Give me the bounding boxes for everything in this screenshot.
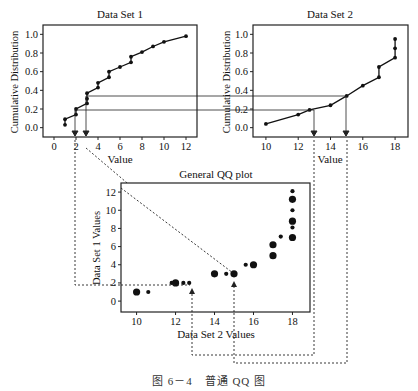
data-point — [107, 75, 111, 79]
qq-point — [250, 261, 257, 268]
data-point — [151, 45, 155, 49]
qq-point — [269, 252, 276, 259]
qq-ylabel: Data Set 1 Values — [91, 211, 102, 285]
plot-data-set-1: Data Set 1 0.00.20.40.60.81.0 024681012 … — [9, 8, 197, 165]
data-point — [140, 50, 144, 54]
qq-x-ticks: 1012141618 — [131, 312, 297, 327]
qq-title: General QQ plot — [179, 168, 252, 180]
plot1-series — [63, 34, 188, 126]
data-point — [393, 46, 397, 50]
qq-point — [181, 281, 185, 285]
data-point — [393, 37, 397, 41]
data-point — [184, 34, 188, 38]
qq-point — [269, 241, 276, 248]
y-tick-label: 0.0 — [235, 122, 248, 133]
y-tick-label: 8 — [111, 223, 116, 234]
data-point — [96, 86, 100, 90]
y-tick-label: 0.4 — [235, 85, 249, 96]
data-point — [96, 81, 100, 85]
qq-figure: Data Set 1 0.00.20.40.60.81.0 024681012 … — [0, 0, 418, 391]
qq-point — [279, 234, 283, 238]
plot2-series — [264, 37, 397, 126]
y-tick-label: 1.0 — [235, 29, 248, 40]
x-tick-label: 2 — [73, 141, 78, 152]
plot2-x-ticks: 1012141618 — [261, 137, 401, 152]
plot-general-qq: General QQ plot 024681012 1012141618 Dat… — [91, 168, 310, 340]
plot1-xlabel: Value — [107, 153, 132, 165]
data-point — [361, 84, 365, 88]
x-tick-label: 12 — [170, 316, 181, 327]
data-point — [129, 60, 133, 64]
x-tick-label: 18 — [390, 141, 401, 152]
y-tick-label: 0.6 — [235, 66, 248, 77]
plot1-x-ticks: 024681012 — [51, 137, 191, 152]
plot2-xlabel: Value — [317, 153, 342, 165]
data-point — [63, 123, 67, 127]
x-tick-label: 8 — [139, 141, 144, 152]
y-tick-label: 1.0 — [25, 29, 38, 40]
data-point — [107, 70, 111, 74]
y-tick-label: 0.2 — [25, 104, 38, 115]
y-tick-label: 0.8 — [25, 48, 38, 59]
qq-point — [290, 225, 294, 229]
x-tick-label: 10 — [159, 141, 170, 152]
qq-point — [133, 288, 140, 295]
qq-xlabel: Data Set 2 Values — [177, 328, 255, 340]
qq-point — [146, 290, 150, 294]
data-point — [393, 56, 397, 60]
y-tick-label: 4 — [111, 259, 117, 270]
y-tick-label: 0.4 — [25, 85, 39, 96]
plot1-ylabel: Cumulative Distribution — [9, 30, 20, 133]
data-point — [329, 103, 333, 107]
x-tick-label: 12 — [293, 141, 304, 152]
x-tick-label: 16 — [358, 141, 369, 152]
figure-caption: 图 6－4 普通 QQ 图 — [0, 372, 418, 388]
qq-point — [289, 234, 296, 241]
data-point — [85, 91, 89, 95]
qq-point — [224, 272, 228, 276]
plot-data-set-2: Data Set 2 0.00.20.40.60.81.0 1012141618… — [221, 8, 408, 165]
x-tick-label: 4 — [95, 141, 101, 152]
data-point — [377, 65, 381, 69]
qq-y-ticks: 024681012 — [106, 187, 122, 307]
plot2-y-ticks: 0.00.20.40.60.81.0 — [235, 29, 253, 133]
x-tick-label: 10 — [261, 141, 272, 152]
data-point — [129, 55, 133, 59]
qq-point — [211, 270, 218, 277]
y-tick-label: 0.6 — [25, 66, 38, 77]
data-point — [162, 40, 166, 44]
y-tick-label: 10 — [106, 205, 117, 216]
qq-point — [244, 263, 248, 267]
y-tick-label: 6 — [111, 241, 116, 252]
qq-point — [289, 196, 296, 203]
plot1-title: Data Set 1 — [97, 8, 143, 20]
plot2-title: Data Set 2 — [307, 8, 353, 20]
x-tick-label: 16 — [248, 316, 259, 327]
x-tick-label: 14 — [325, 141, 336, 152]
x-tick-label: 0 — [51, 141, 56, 152]
y-tick-label: 0.8 — [235, 48, 248, 59]
data-point — [63, 117, 67, 121]
qq-point — [230, 270, 237, 277]
x-tick-label: 6 — [117, 141, 122, 152]
y-tick-label: 12 — [106, 187, 117, 198]
data-point — [118, 65, 122, 69]
y-tick-label: 0.2 — [235, 104, 248, 115]
plot1-y-ticks: 0.00.20.40.60.81.0 — [25, 29, 43, 133]
x-tick-label: 10 — [131, 316, 142, 327]
qq-point — [289, 218, 296, 225]
qq-point — [290, 208, 294, 212]
y-tick-label: 0 — [111, 296, 116, 307]
y-tick-label: 2 — [111, 277, 116, 288]
qq-point — [187, 281, 191, 285]
plot2-ylabel: Cumulative Distribution — [221, 30, 232, 133]
qq-point — [290, 189, 294, 193]
x-tick-label: 14 — [209, 316, 220, 327]
x-tick-label: 18 — [287, 316, 298, 327]
data-point — [264, 122, 268, 126]
data-point — [377, 75, 381, 79]
data-point — [296, 113, 300, 117]
plot2-frame — [253, 25, 408, 137]
x-tick-label: 12 — [181, 141, 192, 152]
y-tick-label: 0.0 — [25, 122, 38, 133]
